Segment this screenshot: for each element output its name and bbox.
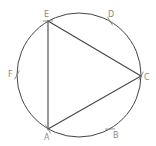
equilateral-triangle-ace bbox=[48, 21, 141, 129]
diagram-canvas: A B C D E F bbox=[0, 0, 156, 146]
label-f: F bbox=[8, 70, 13, 79]
label-b: B bbox=[113, 131, 119, 140]
circumscribed-circle bbox=[17, 13, 141, 137]
arc-tick-marks bbox=[15, 17, 144, 134]
label-c: C bbox=[144, 73, 150, 82]
label-e: E bbox=[44, 10, 49, 19]
label-a: A bbox=[44, 133, 50, 142]
geometry-diagram: A B C D E F bbox=[0, 0, 156, 146]
label-d: D bbox=[108, 10, 114, 19]
point-labels: A B C D E F bbox=[8, 10, 150, 142]
